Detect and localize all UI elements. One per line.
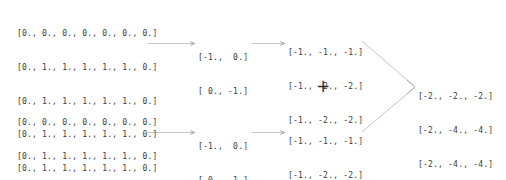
matrix-row: [-2., -4., -4.] — [418, 159, 493, 170]
matrix-row: [0., 0., 0., 0., 0., 0., 0.] — [17, 117, 157, 128]
matrix-row: [-1., -2., -2.] — [288, 170, 363, 180]
arrow-result2-to-output — [362, 88, 414, 132]
matrix-row: [ 0., -1.] — [198, 86, 248, 97]
output-arrowhead — [407, 80, 415, 94]
matrix-row: [0., 1., 1., 1., 1., 1., 0.] — [17, 62, 157, 73]
matrix-row: [-1., -1., -1.] — [288, 47, 363, 58]
matrix-row: [-1., 0.] — [198, 52, 248, 63]
convolution-diagram: [0., 0., 0., 0., 0., 0., 0.] [0., 1., 1.… — [0, 0, 506, 180]
matrix-row: [0., 1., 1., 1., 1., 1., 0.] — [17, 151, 157, 162]
matrix-row: [-2., -2., -2.] — [418, 91, 493, 102]
matrix-row: [-1., -1., -1.] — [288, 136, 363, 147]
summed-output-feature-map: [-2., -2., -2.] [-2., -4., -4.] [-2., -4… — [418, 69, 493, 180]
kernel-channel-2: [-1., 0.] [ 0., -1.] — [198, 119, 248, 180]
kernel-channel-1: [-1., 0.] [ 0., -1.] — [198, 30, 248, 120]
matrix-row: [ 0., -1.] — [198, 175, 248, 180]
matrix-row: [-2., -4., -4.] — [418, 125, 493, 136]
conv-result-channel-2: [-1., -1., -1.] [-1., -2., -2.] [-1., -2… — [288, 114, 363, 180]
matrix-row: [0., 0., 0., 0., 0., 0., 0.] — [17, 28, 157, 39]
input-feature-map-channel-2: [0., 0., 0., 0., 0., 0., 0.] [0., 1., 1.… — [17, 95, 157, 180]
matrix-row: [-1., 0.] — [198, 141, 248, 152]
arrow-result1-to-output — [362, 41, 414, 86]
plus-icon: + — [315, 78, 331, 94]
